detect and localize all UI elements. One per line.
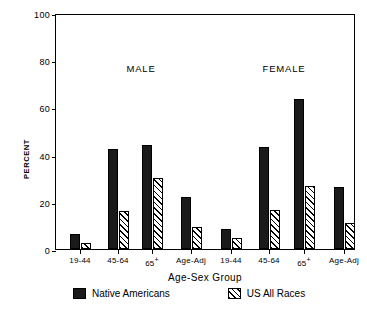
x-tick-label: 45-64 [258, 256, 279, 265]
x-tick-label: 65+ [145, 256, 159, 268]
y-axis-title: PERCENT [22, 139, 31, 179]
x-tick-mark [191, 249, 192, 254]
y-tick-label-100: 100 [4, 11, 56, 20]
x-ticks-layer: 19-4445-6465+Age-Adj19-4445-6465+Age-Adj [56, 15, 354, 249]
x-axis-title: Age-Sex Group [55, 272, 355, 283]
legend-label-us-all-races: US All Races [247, 288, 305, 299]
legend-label-native-americans: Native Americans [92, 288, 170, 299]
chart-legend: Native Americans US All Races [55, 288, 355, 299]
figure-caption [0, 310, 367, 318]
x-tick-label: Age-Adj [329, 256, 359, 265]
legend-swatch-hatched-icon [228, 288, 241, 299]
x-tick-label: 19-44 [69, 256, 90, 265]
x-tick-label: 45-64 [107, 256, 128, 265]
chart-figure: 0 20 40 60 80 100 MALE FEMALE 19-4445-64… [0, 0, 367, 318]
x-tick-mark [344, 249, 345, 254]
x-tick-label: 19-44 [220, 256, 241, 265]
plot-area: 0 20 40 60 80 100 MALE FEMALE 19-4445-64… [55, 14, 355, 250]
y-tick-label-20: 20 [4, 199, 56, 208]
x-tick-mark [269, 249, 270, 254]
x-tick-label: 65+ [297, 256, 311, 268]
x-tick-mark [118, 249, 119, 254]
x-tick-mark [152, 249, 153, 254]
x-tick-label: Age-Adj [176, 256, 206, 265]
x-tick-mark [231, 249, 232, 254]
legend-item-native-americans: Native Americans [73, 288, 170, 299]
legend-item-us-all-races: US All Races [228, 288, 305, 299]
x-tick-mark [304, 249, 305, 254]
y-tick-label-60: 60 [4, 105, 56, 114]
y-tick-label-0: 0 [4, 247, 56, 256]
x-tick-mark [80, 249, 81, 254]
y-tick-label-80: 80 [4, 58, 56, 67]
legend-swatch-solid-icon [73, 288, 86, 299]
